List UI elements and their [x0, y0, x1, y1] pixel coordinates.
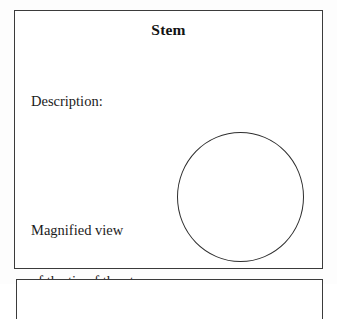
description-field-label: Description: — [31, 93, 103, 110]
stem-worksheet-panel: Stem Description: Magnified view of the … — [14, 10, 323, 269]
next-worksheet-panel — [16, 279, 323, 319]
circle-outline-drawing-area[interactable] — [177, 132, 304, 262]
page-title: Stem — [15, 21, 322, 39]
magnified-view-label-line1: Magnified view — [31, 222, 155, 239]
